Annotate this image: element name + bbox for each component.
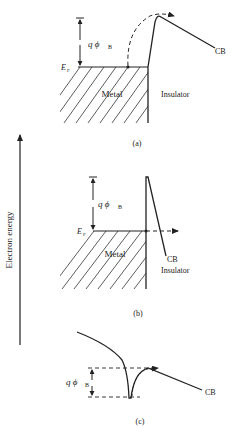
caption-c: (c) [136, 417, 145, 426]
insulator-label-b: Insulator [161, 266, 190, 275]
fermi-label-a: E [60, 63, 66, 72]
energy-band-diagram: Electron energy q ϕ B E F [0, 0, 232, 435]
metal-label-b: Metal [105, 249, 126, 259]
panel-a: q ϕ B E F CB Metal Insulator (a) [40, 14, 226, 148]
conduction-band-a [148, 16, 215, 123]
barrier-label-a: q ϕ [88, 39, 100, 49]
barrier-label-b: q ϕ [98, 199, 110, 209]
svg-text:B: B [118, 204, 122, 210]
cb-label-b: CB [167, 255, 178, 264]
caption-a: (a) [133, 139, 142, 148]
metal-hatch-b [50, 231, 178, 289]
barrier-label-c: q ϕ [66, 377, 78, 387]
insulator-label-a: Insulator [161, 90, 190, 99]
caption-b: (b) [133, 309, 143, 318]
fermi-label-b: E [76, 227, 82, 236]
emission-path-c [132, 368, 158, 396]
emission-path-a [128, 14, 174, 66]
svg-text:B: B [108, 44, 112, 50]
conduction-band-c [77, 332, 202, 398]
svg-text:F: F [83, 232, 86, 237]
svg-text:F: F [67, 68, 70, 73]
panel-b: q ϕ B E F CB Metal Insulator (b) [50, 177, 190, 318]
panel-c: q ϕ B CB (c) [66, 332, 216, 426]
cb-label-a: CB [215, 47, 226, 56]
svg-text:B: B [85, 382, 89, 388]
cb-label-c: CB [205, 388, 216, 397]
electron-energy-axis: Electron energy [4, 135, 20, 345]
axis-label: Electron energy [4, 211, 14, 269]
metal-label-a: Metal [102, 89, 123, 99]
